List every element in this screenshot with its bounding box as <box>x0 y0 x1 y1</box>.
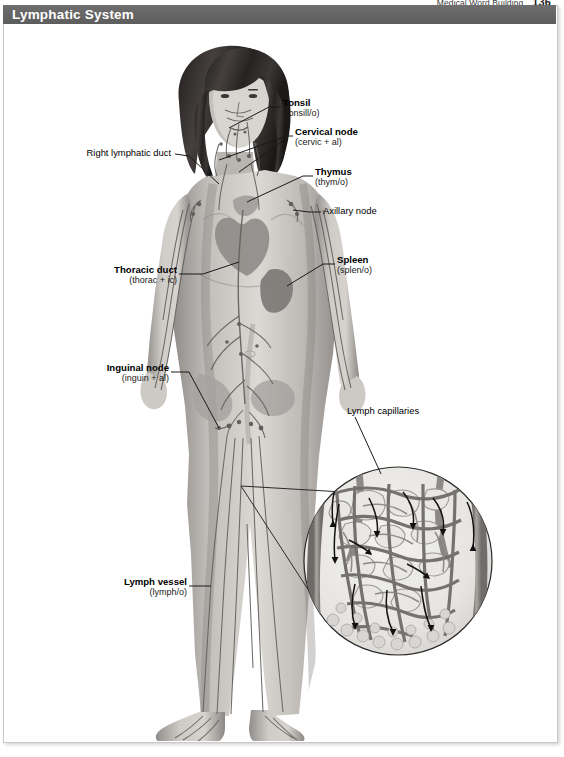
label-lymph-vessel-title: Lymph vessel <box>124 576 187 587</box>
label-cervical-node-wordpart: (cervic + al) <box>295 137 358 147</box>
label-thymus: Thymus (thym/o) <box>315 166 352 187</box>
label-inguinal-node-wordpart: (inguin + al) <box>107 373 169 383</box>
label-axillary-node: Axillary node <box>323 206 377 217</box>
textbook-page: Medical Word Building136 Lymphatic Syste… <box>0 0 564 757</box>
label-lymph-capillaries: Lymph capillaries <box>347 406 419 417</box>
pelvic-mass <box>251 380 295 416</box>
label-thymus-title: Thymus <box>315 166 352 177</box>
label-tonsil-title: Tonsil <box>283 97 320 108</box>
foot-left <box>156 712 225 741</box>
label-thoracic-duct-title: Thoracic duct <box>114 264 177 275</box>
figure-stage: Tonsil (tonsill/o) Cervical node (cervic… <box>3 24 556 741</box>
label-spleen: Spleen (splen/o) <box>337 254 372 275</box>
lymphatic-system-illustration <box>3 24 556 741</box>
label-spleen-wordpart: (splen/o) <box>337 265 372 275</box>
label-axillary-node-title: Axillary node <box>323 206 377 217</box>
label-right-lymphatic-duct: Right lymphatic duct <box>87 148 171 159</box>
label-right-lymphatic-duct-title: Right lymphatic duct <box>87 148 171 159</box>
label-tonsil: Tonsil (tonsill/o) <box>283 97 320 118</box>
label-inguinal-node-title: Inguinal node <box>107 362 169 373</box>
label-cervical-node-title: Cervical node <box>295 126 358 137</box>
label-thymus-wordpart: (thym/o) <box>315 177 352 187</box>
label-spleen-title: Spleen <box>337 254 372 265</box>
label-lymph-capillaries-title: Lymph capillaries <box>347 406 419 417</box>
label-tonsil-wordpart: (tonsill/o) <box>283 108 320 118</box>
female-figure <box>140 46 365 741</box>
label-lymph-vessel-wordpart: (lymph/o) <box>124 587 187 597</box>
label-thoracic-duct: Thoracic duct (thorac + ic) <box>114 264 177 285</box>
label-thoracic-duct-wordpart: (thorac + ic) <box>114 275 177 285</box>
section-banner: Lymphatic System <box>3 5 556 24</box>
label-lymph-vessel: Lymph vessel (lymph/o) <box>124 576 187 597</box>
label-inguinal-node: Inguinal node (inguin + al) <box>107 362 169 383</box>
page-title: Lymphatic System <box>12 7 134 22</box>
label-cervical-node: Cervical node (cervic + al) <box>295 126 358 147</box>
